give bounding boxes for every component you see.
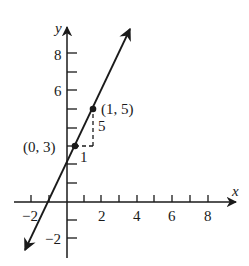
line-graph: x −2 2 4 6 8 y 8 6 −2 1 5 <box>0 0 249 266</box>
point-0-3 <box>72 143 79 150</box>
point-label-0-3: (0, 3) <box>23 139 56 156</box>
y-tick-label: 8 <box>54 47 62 63</box>
x-tick-label: 2 <box>98 208 106 224</box>
y-axis-label: y <box>53 20 62 36</box>
run-label: 1 <box>80 149 88 165</box>
x-tick-label: −2 <box>22 208 38 224</box>
x-axis-label: x <box>231 183 239 199</box>
point-label-1-5: (1, 5) <box>101 101 134 118</box>
x-tick-label: 4 <box>133 208 141 224</box>
y-tick-label: −2 <box>45 231 61 247</box>
point-1-5 <box>90 106 97 113</box>
x-tick-label: 8 <box>204 208 212 224</box>
rise-label: 5 <box>98 118 106 134</box>
x-tick-label: 6 <box>168 208 176 224</box>
y-tick-label: 6 <box>54 83 62 99</box>
